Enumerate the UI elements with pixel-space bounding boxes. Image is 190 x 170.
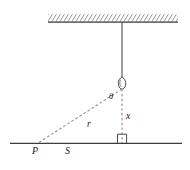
diagram-canvas: θ r x P S (0, 0, 190, 170)
height-x-label: x (126, 112, 130, 122)
angle-theta-label: θ (109, 92, 113, 101)
ceiling-hatch-fill (48, 14, 178, 22)
distance-s-label: S (65, 146, 70, 156)
hook-loop-inner (120, 80, 121, 87)
radius-r-label: r (87, 120, 91, 130)
diagram-svg (0, 0, 190, 170)
point-p-label: P (32, 146, 38, 156)
hook-loop (118, 77, 125, 89)
hatched-ceiling (48, 14, 178, 22)
